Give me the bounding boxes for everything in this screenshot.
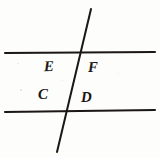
scan-speck [62,80,63,81]
figure-canvas [0,0,160,157]
angle-label-c: C [38,87,48,102]
geometry-figure: E F C D [0,0,160,157]
scan-speck [17,63,19,64]
scan-speck [118,73,119,74]
scan-speck [20,89,22,91]
angle-label-f: F [88,60,98,75]
angle-label-e: E [44,59,54,74]
angle-label-d: D [81,90,92,105]
lower-parallel-line [5,110,155,112]
